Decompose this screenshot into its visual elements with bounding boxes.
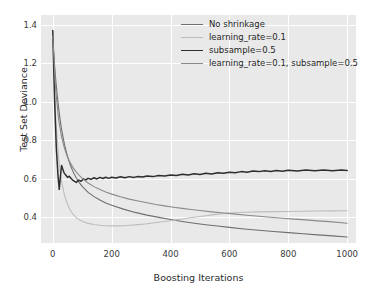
legend-label: learning_rate=0.1 <box>209 32 286 42</box>
legend-line-icon <box>181 37 203 38</box>
legend-item: No shrinkage <box>181 18 358 30</box>
y-axis-label: Test Set Deviance <box>18 40 29 180</box>
legend-line-icon <box>181 63 203 64</box>
x-tick-label: 200 <box>92 249 132 259</box>
legend: No shrinkagelearning_rate=0.1subsample=0… <box>178 16 361 71</box>
legend-item: learning_rate=0.1 <box>181 31 358 43</box>
legend-line-icon <box>181 24 203 25</box>
legend-line-icon <box>181 50 203 51</box>
x-tick-label: 400 <box>151 249 191 259</box>
y-tick-label: 1.4 <box>1 20 37 30</box>
legend-label: subsample=0.5 <box>209 45 276 55</box>
legend-label: No shrinkage <box>209 19 265 29</box>
legend-item: learning_rate=0.1, subsample=0.5 <box>181 57 358 69</box>
legend-label: learning_rate=0.1, subsample=0.5 <box>209 58 358 68</box>
legend-item: subsample=0.5 <box>181 44 358 56</box>
x-tick-label: 0 <box>33 249 73 259</box>
x-tick-label: 1000 <box>327 249 367 259</box>
x-axis-label: Boosting Iterations <box>41 272 356 283</box>
x-tick-label: 800 <box>268 249 308 259</box>
chart-figure: 0.40.60.81.01.21.4 02004006008001000 Tes… <box>0 0 372 295</box>
y-tick-label: 0.4 <box>1 212 37 222</box>
x-tick-label: 600 <box>209 249 249 259</box>
